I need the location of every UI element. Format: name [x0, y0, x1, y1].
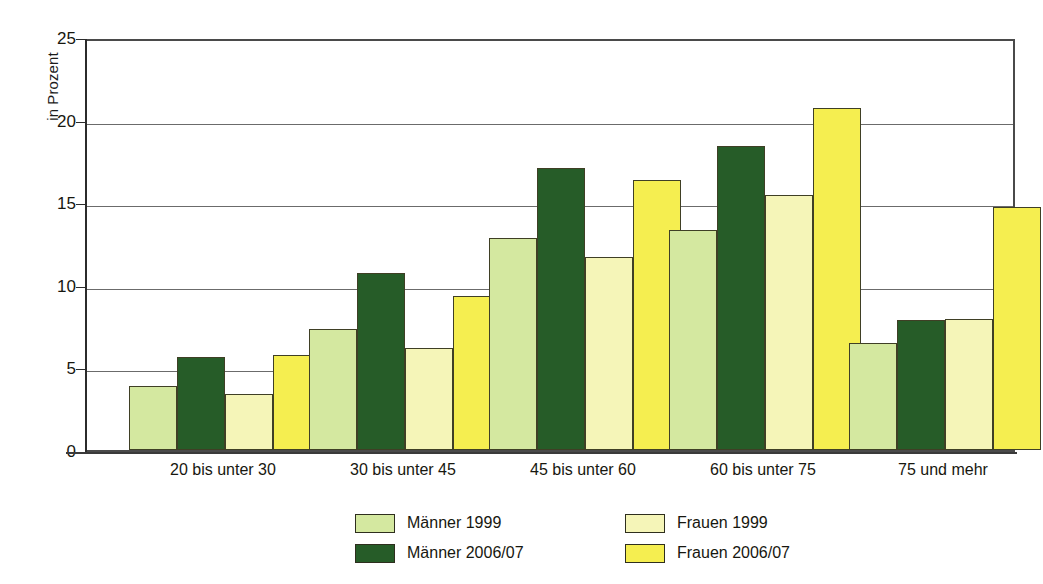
legend-item-3[interactable]: Frauen 2006/07	[625, 538, 875, 568]
bar-3-0	[669, 230, 717, 450]
x-axis-line	[66, 452, 1017, 454]
bar-3-2	[765, 195, 813, 450]
chart-legend: Männer 1999Frauen 1999Männer 2006/07Frau…	[355, 508, 875, 568]
bar-2-0	[489, 238, 537, 450]
legend-swatch-icon-1	[625, 514, 665, 533]
y-tick-label-25: 25	[0, 29, 76, 49]
x-axis-label-0: 20 bis unter 30	[123, 461, 323, 479]
y-tick-label-5: 5	[0, 359, 76, 379]
legend-swatch-icon-2	[355, 544, 395, 563]
y-tick-label-20: 20	[0, 112, 76, 132]
plot-area	[85, 39, 1015, 452]
bar-1-2	[405, 348, 453, 450]
bar-3-1	[717, 146, 765, 450]
legend-label-2: Männer 2006/07	[407, 544, 524, 562]
bar-4-0	[849, 343, 897, 450]
y-tick-label-10: 10	[0, 277, 76, 297]
bar-0-1	[177, 357, 225, 450]
x-axis-label-1: 30 bis unter 45	[303, 461, 503, 479]
legend-item-1[interactable]: Frauen 1999	[625, 508, 875, 538]
x-axis-label-4: 75 und mehr	[843, 461, 1043, 479]
legend-label-3: Frauen 2006/07	[677, 544, 790, 562]
bar-0-0	[129, 386, 177, 450]
bar-4-3	[993, 207, 1041, 450]
legend-swatch-icon-0	[355, 514, 395, 533]
legend-item-2[interactable]: Männer 2006/07	[355, 538, 605, 568]
bar-4-2	[945, 319, 993, 450]
bar-2-2	[585, 257, 633, 450]
bar-1-1	[357, 273, 405, 450]
legend-item-0[interactable]: Männer 1999	[355, 508, 605, 538]
y-axis-line	[85, 39, 87, 454]
bar-2-1	[537, 168, 585, 450]
legend-swatch-icon-3	[625, 544, 665, 563]
y-tick-label-0: 0	[0, 442, 76, 462]
bar-0-2	[225, 394, 273, 450]
bar-4-1	[897, 320, 945, 450]
x-axis-label-2: 45 bis unter 60	[483, 461, 683, 479]
y-tick-label-15: 15	[0, 194, 76, 214]
x-axis-label-3: 60 bis unter 75	[663, 461, 863, 479]
bar-1-0	[309, 329, 357, 450]
legend-label-0: Männer 1999	[407, 514, 501, 532]
legend-label-1: Frauen 1999	[677, 514, 768, 532]
gridline-20	[87, 124, 1013, 125]
